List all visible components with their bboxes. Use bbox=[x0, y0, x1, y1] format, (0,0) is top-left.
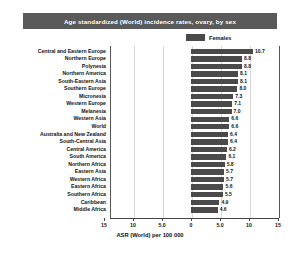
legend-swatch-females bbox=[186, 34, 205, 41]
x-axis-tick-label: 0 bbox=[190, 222, 193, 228]
bar-value-label: 4.9 bbox=[221, 199, 228, 207]
bar-value-label: 8.1 bbox=[240, 78, 247, 86]
chart-row: Caribbean4.9 bbox=[0, 199, 300, 207]
category-label: Central and Eastern Europe bbox=[38, 48, 106, 56]
category-label: Northern Africa bbox=[68, 161, 106, 169]
category-label: Western Africa bbox=[70, 176, 106, 184]
bar-value-label: 6.4 bbox=[230, 138, 237, 146]
bar-value-label: 5.8 bbox=[227, 161, 234, 169]
x-axis-tick-label: 10 bbox=[246, 222, 252, 228]
bar-females bbox=[191, 64, 242, 69]
chart-row: South America6.1 bbox=[0, 153, 300, 161]
bar-females bbox=[191, 200, 219, 205]
x-axis-tick bbox=[162, 218, 163, 221]
bar-females bbox=[191, 124, 229, 129]
bar-females bbox=[191, 86, 237, 91]
x-axis-tick-label: 15 bbox=[275, 222, 281, 228]
x-axis-tick-label: 5.0 bbox=[216, 222, 223, 228]
bar-value-label: 6.2 bbox=[229, 146, 236, 154]
chart-row: Western Europe7.1 bbox=[0, 100, 300, 108]
bar-females bbox=[191, 154, 226, 159]
bar-value-label: 10.7 bbox=[255, 48, 265, 56]
chart-row: Northern America8.1 bbox=[0, 70, 300, 78]
category-label: Western Europe bbox=[66, 100, 106, 108]
category-label: Northern Europe bbox=[65, 55, 106, 63]
bar-females bbox=[191, 109, 232, 114]
bar-females bbox=[191, 117, 229, 122]
chart-row: Northern Africa5.8 bbox=[0, 161, 300, 169]
chart-figure: Age standardized (World) incidence rates… bbox=[0, 0, 300, 255]
category-label: Australia and New Zealand bbox=[40, 131, 106, 139]
chart-row: Central America6.2 bbox=[0, 146, 300, 154]
bar-females bbox=[191, 192, 223, 197]
x-axis-tick-label: 5.0 bbox=[158, 222, 165, 228]
chart-row: Southern Africa5.5 bbox=[0, 191, 300, 199]
x-axis-line bbox=[110, 218, 279, 219]
category-label: Caribbean bbox=[81, 199, 106, 207]
bar-value-label: 7.0 bbox=[234, 108, 241, 116]
category-label: Eastern Asia bbox=[75, 168, 106, 176]
chart-row: Micronesia7.3 bbox=[0, 93, 300, 101]
bar-value-label: 7.3 bbox=[235, 93, 242, 101]
bar-value-label: 4.6 bbox=[220, 206, 227, 214]
x-axis-tick bbox=[133, 218, 134, 221]
bar-females bbox=[191, 79, 238, 84]
bar-value-label: 5.5 bbox=[225, 191, 232, 199]
chart-row: Central and Eastern Europe10.7 bbox=[0, 48, 300, 56]
bar-females bbox=[191, 56, 242, 61]
category-label: World bbox=[91, 123, 106, 131]
bar-females bbox=[191, 177, 224, 182]
category-label: Southern Africa bbox=[67, 191, 106, 199]
category-label: South-Eastern Asia bbox=[58, 78, 106, 86]
chart-row: Eastern Asia5.7 bbox=[0, 168, 300, 176]
chart-row: Australia and New Zealand6.4 bbox=[0, 131, 300, 139]
category-label: Central America bbox=[66, 146, 106, 154]
bar-females bbox=[191, 139, 228, 144]
chart-row: South-Central Asia6.4 bbox=[0, 138, 300, 146]
x-axis-title: ASR (World) per 100 000 bbox=[0, 232, 300, 238]
chart-row: South-Eastern Asia8.1 bbox=[0, 78, 300, 86]
category-label: Melanesia bbox=[81, 108, 106, 116]
bar-females bbox=[191, 101, 232, 106]
bar-value-label: 5.6 bbox=[225, 183, 232, 191]
chart-title-banner: Age standardized (World) incidence rates… bbox=[23, 13, 277, 29]
chart-row: Southern Europe8.0 bbox=[0, 85, 300, 93]
category-label: South-Central Asia bbox=[60, 138, 107, 146]
category-label: Polynesia bbox=[82, 63, 106, 71]
bar-value-label: 6.4 bbox=[230, 131, 237, 139]
category-label: South America bbox=[70, 153, 106, 161]
bar-value-label: 8.1 bbox=[240, 70, 247, 78]
chart-title: Age standardized (World) incidence rates… bbox=[64, 18, 236, 25]
bar-females bbox=[191, 162, 225, 167]
chart-row: Eastern Africa5.6 bbox=[0, 183, 300, 191]
chart-row: Middle Africa4.6 bbox=[0, 206, 300, 214]
chart-row: Western Africa5.7 bbox=[0, 176, 300, 184]
bar-value-label: 6.6 bbox=[231, 123, 238, 131]
category-label: Northern America bbox=[62, 70, 106, 78]
chart-row: Western Asia6.6 bbox=[0, 115, 300, 123]
category-label: Western Asia bbox=[73, 115, 106, 123]
x-axis-tick bbox=[278, 218, 279, 221]
x-axis-tick bbox=[104, 218, 105, 221]
category-label: Middle Africa bbox=[74, 206, 106, 214]
bar-value-label: 8.0 bbox=[239, 85, 246, 93]
x-axis-tick bbox=[220, 218, 221, 221]
bar-females bbox=[191, 49, 253, 54]
chart-legend: Females bbox=[186, 34, 231, 41]
category-label: Micronesia bbox=[79, 93, 106, 101]
bar-females bbox=[191, 184, 223, 189]
x-axis-tick-label: 10 bbox=[130, 222, 136, 228]
bar-females bbox=[191, 147, 227, 152]
chart-row: Melanesia7.0 bbox=[0, 108, 300, 116]
bar-females bbox=[191, 132, 228, 137]
x-axis-tick bbox=[191, 218, 192, 221]
chart-row: Polynesia8.8 bbox=[0, 63, 300, 71]
legend-label-females: Females bbox=[209, 35, 231, 41]
bar-value-label: 5.7 bbox=[226, 176, 233, 184]
category-label: Southern Europe bbox=[64, 85, 106, 93]
bar-value-label: 7.1 bbox=[234, 100, 241, 108]
bar-value-label: 8.8 bbox=[244, 63, 251, 71]
bar-females bbox=[191, 207, 218, 212]
bar-value-label: 8.8 bbox=[244, 55, 251, 63]
bar-females bbox=[191, 169, 224, 174]
